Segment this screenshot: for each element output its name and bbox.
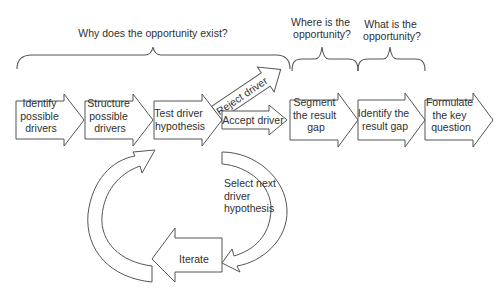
header-what: What is the opportunity? [363, 18, 421, 42]
step-test-hypothesis: Test driver hypothesis [154, 94, 222, 146]
header-why: Why does the opportunity exist? [78, 27, 228, 39]
iterate-step: Iterate [152, 228, 222, 282]
step-identify-gap: Identify the result gap [358, 93, 425, 147]
brace-where [292, 47, 358, 71]
step-formulate-question: Formulate the key question [425, 93, 493, 147]
svg-text:Identify possible: Identify possible drivers [20, 97, 61, 134]
loop-return-arrow [88, 150, 155, 282]
brace-what [358, 47, 425, 71]
svg-text:Formulate the key: Formulate the key question [426, 96, 476, 133]
step-segment-gap: Segment the result gap [290, 93, 358, 147]
svg-text:Test driver hypothesis: Test driver hypothesis [154, 107, 205, 132]
brace-why [17, 47, 290, 69]
svg-text:Accept driver: Accept driver [222, 114, 284, 126]
step-structure-drivers: Structure possible drivers [85, 94, 153, 146]
iterate-label: Iterate [179, 253, 209, 265]
svg-text:Identify the result gap: Identify the result gap [358, 107, 412, 132]
header-where: Where is the opportunity? [291, 16, 353, 40]
step-identify-drivers: Identify possible drivers [16, 94, 84, 146]
flow-diagram: Why does the opportunity exist? Where is… [0, 0, 504, 288]
